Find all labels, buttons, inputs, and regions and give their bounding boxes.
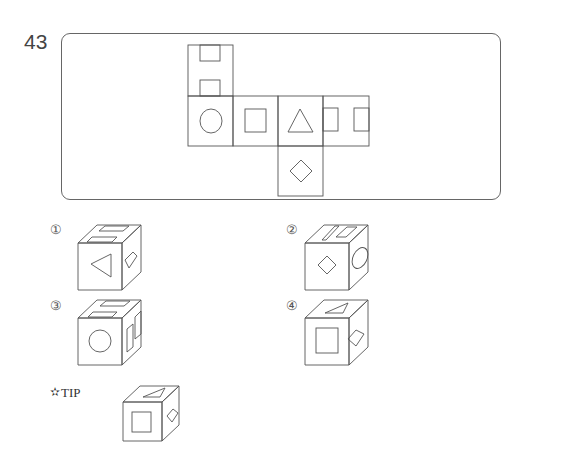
triangle-icon [288, 109, 313, 132]
triangle-icon [325, 303, 348, 313]
circle-icon [89, 330, 111, 352]
option-4-cube[interactable] [305, 300, 368, 365]
option-3-cube[interactable] [78, 300, 141, 365]
option-2-label[interactable]: ② [286, 222, 298, 237]
net-face-triangle [278, 96, 323, 146]
tip-label: TIP [61, 385, 81, 400]
option-1-label[interactable]: ① [50, 222, 62, 237]
net-face-halves [323, 96, 369, 146]
net-face-top [188, 45, 233, 96]
diamond-icon [348, 330, 364, 346]
diamond-icon [290, 160, 312, 182]
diagram-canvas [0, 0, 564, 456]
half-rect-icon [88, 312, 117, 317]
half-rect-icon [322, 226, 339, 240]
half-rect-icon [200, 45, 220, 61]
net-face-square [233, 96, 278, 146]
diamond-icon [125, 252, 137, 268]
option-2-cube[interactable] [305, 225, 371, 290]
half-rect-icon [100, 301, 130, 306]
half-rect-icon [323, 108, 338, 131]
cube-net [188, 45, 369, 196]
half-rect-icon [99, 226, 129, 231]
square-icon [132, 412, 151, 432]
net-face-circle [188, 96, 233, 146]
half-rect-icon [200, 80, 220, 96]
triangle-icon [91, 254, 111, 277]
half-rect-icon [336, 227, 357, 237]
half-rect-icon [87, 237, 117, 242]
diamond-icon [167, 409, 178, 422]
half-rect-icon [135, 311, 141, 339]
tip-label-group: ✫TIP [50, 385, 81, 401]
diamond-icon [318, 256, 336, 274]
square-icon [245, 109, 266, 132]
net-face-diamond [278, 146, 323, 196]
half-rect-icon [354, 108, 369, 131]
tip-cube [123, 386, 179, 441]
star-pin-icon: ✫ [50, 385, 60, 399]
option-4-label[interactable]: ④ [286, 298, 298, 313]
option-3-label[interactable]: ③ [50, 298, 62, 313]
circle-icon [200, 109, 222, 133]
half-rect-icon [127, 324, 133, 352]
triangle-icon [143, 388, 165, 397]
square-icon [316, 328, 338, 353]
option-1-cube[interactable] [78, 225, 141, 290]
